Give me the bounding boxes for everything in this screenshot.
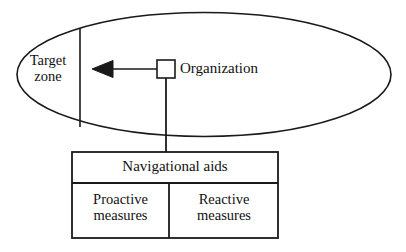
target-zone-ellipse: [17, 13, 391, 137]
organization-square: [157, 60, 175, 78]
diagram-graphics: [0, 0, 406, 252]
diagram-canvas: Target zone Organization Navigational ai…: [0, 0, 406, 252]
navigational-aids-table-frame: [72, 152, 278, 238]
